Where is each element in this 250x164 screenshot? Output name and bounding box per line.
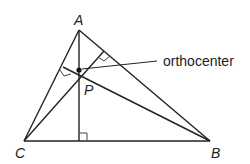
right-angle-marker-base bbox=[79, 133, 87, 141]
point-label-p: P bbox=[84, 82, 94, 98]
vertex-label-b: B bbox=[211, 145, 220, 161]
vertex-label-c: C bbox=[15, 145, 26, 161]
orthocenter-annotation: orthocenter bbox=[163, 53, 234, 69]
vertex-label-a: A bbox=[73, 12, 83, 28]
side-ac bbox=[24, 30, 79, 141]
orthocenter-diagram: A B C P orthocenter bbox=[0, 0, 250, 164]
orthocenter-point bbox=[76, 67, 81, 72]
